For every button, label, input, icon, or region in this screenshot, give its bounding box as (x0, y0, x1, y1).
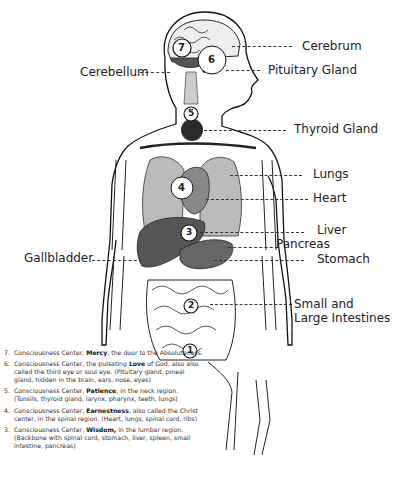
stomach-leader (214, 260, 304, 261)
legend-item-4: 4. Consciousness Center, Earnestness, al… (4, 407, 204, 423)
legend-item-6: 6. Consciousness Center, the pulsating L… (4, 360, 204, 384)
label-cerebrum: Cerebrum (302, 40, 362, 53)
label-pituitary-gland: Pituitary Gland (268, 64, 357, 77)
liver-leader (200, 232, 304, 233)
anatomy-diagram: 7 6 5 4 3 2 1 Cerebrum Pituitary Gland C… (0, 0, 395, 490)
label-lungs: Lungs (313, 168, 349, 181)
thyroid-leader (204, 130, 286, 131)
center-4-number: 4 (178, 182, 185, 193)
center-7-number: 7 (178, 42, 185, 53)
legend-item-7: 7. Consciousness Center, Mercy, the door… (4, 349, 204, 357)
label-liver: Liver (317, 224, 346, 237)
consciousness-centers-legend: 7. Consciousness Center, Mercy, the door… (4, 349, 204, 453)
lungs-leader (230, 175, 302, 176)
center-6-number: 6 (208, 54, 215, 65)
legend-item-5: 5. Consciousness Center, Patience, in th… (4, 387, 204, 403)
label-gallbladder: Gallbladder (24, 252, 93, 265)
pituitary-leader (226, 70, 260, 71)
heart-leader (206, 199, 308, 200)
label-intestines-1: Small and (294, 298, 354, 311)
gallbladder-leader (92, 260, 142, 261)
label-heart: Heart (313, 192, 346, 205)
label-thyroid-gland: Thyroid Gland (294, 123, 378, 136)
cerebrum-leader (232, 46, 292, 47)
label-intestines-2: Large Intestines (294, 312, 390, 325)
legend-item-3: 3. Consciousness Center, Wisdom, in the … (4, 426, 204, 450)
center-5-number: 5 (188, 109, 194, 119)
intestines-leader (210, 304, 292, 305)
label-cerebellum: Cerebellum (80, 66, 149, 79)
label-pancreas: Pancreas (276, 238, 330, 251)
center-2-number: 2 (188, 301, 194, 311)
center-3-number: 3 (186, 228, 192, 238)
pancreas-leader (228, 247, 278, 248)
label-stomach: Stomach (317, 253, 370, 266)
